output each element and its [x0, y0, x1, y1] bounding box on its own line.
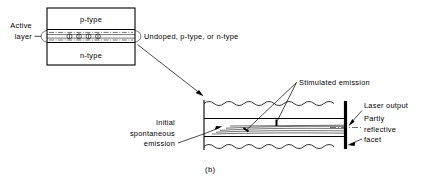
active-layer-label-line2: layer: [15, 32, 33, 41]
initial-spontaneous-emission-callout: Initial spontaneous emission: [130, 118, 205, 148]
zoom-connector-line: [138, 45, 202, 95]
partly-reflective-facet-label-line2: reflective: [364, 125, 396, 134]
partly-reflective-facet-label-line3: facet: [364, 135, 381, 144]
carrier-symbol: [77, 34, 82, 39]
left-diagram-group: p-type n-type Active layer Undoped, p-ty…: [10, 8, 238, 65]
carrier-symbol: [67, 34, 72, 39]
zoom-connector-group: [138, 45, 204, 97]
stimulated-emission-label: Stimulated emission: [299, 78, 370, 87]
cavity-ray: [230, 125, 345, 126]
initial-spontaneous-label-line1: Initial: [156, 118, 175, 127]
cavity-ray: [216, 131, 345, 133]
cavity-ray: [212, 133, 345, 134]
carrier-symbol: [96, 34, 101, 39]
p-type-layer-label: p-type: [80, 15, 102, 24]
cavity-top-torn-edge: [204, 102, 334, 106]
active-layer-label-line1: Active: [10, 21, 32, 30]
spontaneous-emission-arrows: [205, 126, 223, 134]
n-type-layer-label: n-type: [80, 51, 102, 60]
cavity-bottom-torn-edge: [204, 145, 334, 149]
partly-reflective-facet-leader-line: [350, 139, 362, 144]
initial-spontaneous-label-line3: emission: [144, 139, 175, 148]
stimulated-emission-leader-1: [278, 83, 297, 121]
cavity-ray: [220, 128, 345, 130]
carrier-symbol: [86, 34, 91, 39]
active-layer-composition-label: Undoped, p-type, or n-type: [144, 32, 238, 41]
initial-spontaneous-label-line2: spontaneous: [130, 129, 175, 138]
partly-reflective-facet-label-line1: Partly: [364, 114, 384, 123]
stimulated-emission-leader-2: [247, 83, 297, 130]
right-diagram-group: [204, 100, 362, 150]
laser-output-label: Laser output: [364, 101, 408, 110]
partly-reflective-facet-arrowhead: [348, 142, 356, 146]
figure-caption: (b): [205, 165, 216, 174]
figure-semiconductor-laser: p-type n-type Active layer Undoped, p-ty…: [0, 0, 423, 185]
active-layer-left-bracket: [41, 31, 47, 43]
figure-canvas: p-type n-type Active layer Undoped, p-ty…: [0, 0, 423, 185]
stimulated-ray-bundle: [212, 125, 345, 134]
composition-right-bracket: [135, 31, 141, 43]
initial-spontaneous-leader-line: [178, 134, 205, 144]
spontaneous-ray-a-arrowhead: [215, 126, 223, 130]
